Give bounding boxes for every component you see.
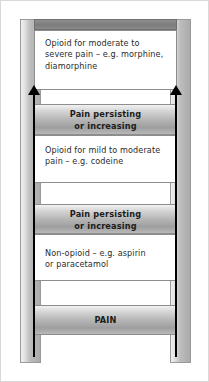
rung-pain-persisting-upper: Pain persisting or increasing bbox=[34, 104, 177, 135]
step-non-opioid-text: Non-opioid – e.g. aspirin or paracetamol bbox=[35, 235, 176, 271]
step-non-opioid: Non-opioid – e.g. aspirin or paracetamol bbox=[34, 234, 177, 281]
base-band-pain-text: PAIN bbox=[35, 306, 176, 327]
arrow-shaft-left bbox=[33, 92, 35, 357]
rung-pain-persisting-upper-text: Pain persisting or increasing bbox=[35, 105, 176, 132]
base-band-pain: PAIN bbox=[34, 305, 177, 335]
rung-pain-persisting-lower-text: Pain persisting or increasing bbox=[35, 205, 176, 232]
upward-arrow-icon-right bbox=[170, 85, 183, 357]
ladder-top-cap bbox=[34, 19, 177, 30]
arrow-shaft-right bbox=[175, 92, 177, 357]
pain-ladder-diagram: Opioid for moderate to severe pain – e.g… bbox=[0, 0, 209, 382]
step-opioid-mild-text: Opioid for mild to moderate pain – e.g. … bbox=[35, 136, 176, 168]
step-opioid-severe: Opioid for moderate to severe pain – e.g… bbox=[34, 30, 177, 90]
step-opioid-mild: Opioid for mild to moderate pain – e.g. … bbox=[34, 135, 177, 183]
step-opioid-severe-text: Opioid for moderate to severe pain – e.g… bbox=[35, 31, 176, 72]
rung-pain-persisting-lower: Pain persisting or increasing bbox=[34, 204, 177, 234]
upward-arrow-icon-left bbox=[28, 85, 41, 357]
